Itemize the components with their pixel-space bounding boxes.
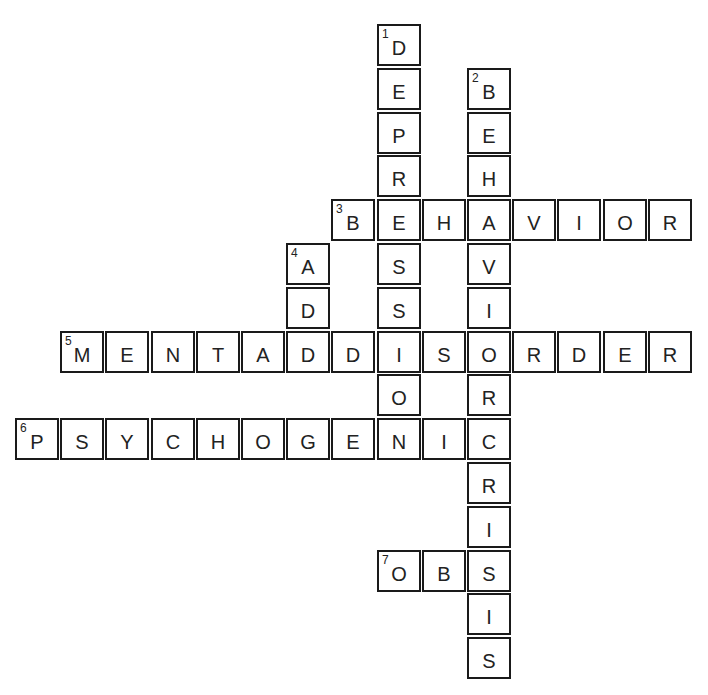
cell-letter: I [379, 344, 419, 367]
crossword-cell[interactable]: R [467, 462, 511, 504]
cell-letter: O [469, 344, 509, 367]
crossword-cell[interactable]: D [286, 331, 330, 373]
crossword-cell[interactable]: R [467, 374, 511, 416]
crossword-cell[interactable]: I [467, 593, 511, 635]
crossword-cell[interactable]: E [603, 331, 647, 373]
cell-letter: P [379, 125, 419, 148]
cell-letter: S [379, 256, 419, 279]
crossword-cell[interactable]: N [377, 418, 421, 460]
cell-letter: E [469, 125, 509, 148]
cell-letter: O [605, 212, 645, 235]
cell-letter: S [424, 344, 464, 367]
cell-letter: R [650, 212, 690, 235]
cell-letter: Y [107, 431, 147, 454]
cell-letter: S [469, 650, 509, 673]
crossword-cell[interactable]: I [422, 418, 466, 460]
crossword-cell[interactable]: D [557, 331, 601, 373]
cell-letter: D [288, 300, 328, 323]
cell-letter: V [514, 212, 554, 235]
crossword-cell[interactable]: 6P [15, 418, 59, 460]
cell-letter: T [198, 344, 238, 367]
crossword-cell[interactable]: R [512, 331, 556, 373]
cell-letter: O [379, 387, 419, 410]
cell-letter: E [605, 344, 645, 367]
cell-letter: N [379, 431, 419, 454]
cell-letter: O [379, 563, 419, 586]
crossword-cell[interactable]: I [557, 199, 601, 241]
crossword-cell[interactable]: 7O [377, 550, 421, 592]
cell-letter: A [469, 212, 509, 235]
cell-letter: B [424, 563, 464, 586]
cell-letter: E [107, 344, 147, 367]
crossword-cell[interactable]: 5M [60, 331, 104, 373]
cell-letter: S [62, 431, 102, 454]
crossword-cell[interactable]: I [467, 287, 511, 329]
crossword-cell[interactable]: 4A [286, 243, 330, 285]
crossword-cell[interactable]: E [377, 68, 421, 110]
crossword-cell[interactable]: V [512, 199, 556, 241]
crossword-cell[interactable]: P [377, 112, 421, 154]
cell-letter: C [469, 431, 509, 454]
crossword-cell[interactable]: R [648, 331, 692, 373]
cell-letter: I [559, 212, 599, 235]
crossword-cell[interactable]: H [196, 418, 240, 460]
cell-letter: H [424, 212, 464, 235]
cell-letter: S [379, 300, 419, 323]
cell-letter: D [559, 344, 599, 367]
crossword-cell[interactable]: A [241, 331, 285, 373]
cell-letter: A [288, 256, 328, 279]
cell-letter: E [379, 212, 419, 235]
crossword-cell[interactable]: D [286, 287, 330, 329]
crossword-cell[interactable]: H [467, 155, 511, 197]
cell-letter: H [469, 168, 509, 191]
crossword-cell[interactable]: R [377, 155, 421, 197]
crossword-cell[interactable]: T [196, 331, 240, 373]
cell-letter: R [379, 168, 419, 191]
cell-letter: N [153, 344, 193, 367]
cell-letter: I [469, 300, 509, 323]
crossword-cell[interactable]: O [467, 331, 511, 373]
crossword-cell[interactable]: S [422, 331, 466, 373]
crossword-cell[interactable]: C [467, 418, 511, 460]
crossword-cell[interactable]: E [467, 112, 511, 154]
cell-letter: R [469, 475, 509, 498]
crossword-cell[interactable]: S [60, 418, 104, 460]
crossword-cell[interactable]: O [377, 374, 421, 416]
crossword-cell[interactable]: N [151, 331, 195, 373]
crossword-cell[interactable]: G [286, 418, 330, 460]
crossword-cell[interactable]: S [467, 550, 511, 592]
cell-letter: G [288, 431, 328, 454]
crossword-cell[interactable]: R [648, 199, 692, 241]
crossword-cell[interactable]: Y [105, 418, 149, 460]
crossword-cell[interactable]: S [377, 243, 421, 285]
cell-letter: R [650, 344, 690, 367]
crossword-cell[interactable]: B [422, 550, 466, 592]
cell-letter: I [469, 519, 509, 542]
crossword-cell[interactable]: S [377, 287, 421, 329]
crossword-cell[interactable]: O [241, 418, 285, 460]
cell-letter: A [243, 344, 283, 367]
crossword-cell[interactable]: D [331, 331, 375, 373]
crossword-cell[interactable]: 2B [467, 68, 511, 110]
crossword-cell[interactable]: I [467, 506, 511, 548]
cell-letter: P [17, 431, 57, 454]
crossword-cell[interactable]: 1D [377, 24, 421, 66]
crossword-cell[interactable]: H [422, 199, 466, 241]
crossword-cell[interactable]: E [105, 331, 149, 373]
crossword-cell[interactable]: A [467, 199, 511, 241]
crossword-cell[interactable]: 3B [331, 199, 375, 241]
cell-letter: E [333, 431, 373, 454]
cell-letter: R [469, 387, 509, 410]
crossword-cell[interactable]: S [467, 637, 511, 679]
cell-letter: O [243, 431, 283, 454]
crossword-cell[interactable]: C [151, 418, 195, 460]
cell-letter: B [333, 212, 373, 235]
cell-letter: D [379, 37, 419, 60]
crossword-cell[interactable]: O [603, 199, 647, 241]
crossword-cell[interactable]: E [331, 418, 375, 460]
cell-letter: M [62, 344, 102, 367]
crossword-cell[interactable]: E [377, 199, 421, 241]
crossword-cell[interactable]: V [467, 243, 511, 285]
cell-letter: C [153, 431, 193, 454]
crossword-cell[interactable]: I [377, 331, 421, 373]
